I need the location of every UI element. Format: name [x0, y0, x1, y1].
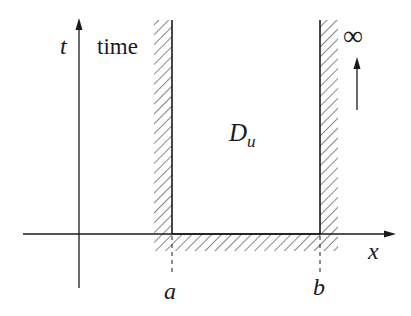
- t-axis: [76, 18, 83, 288]
- right-boundary-hatch: [320, 20, 338, 234]
- x-axis-arrowhead-icon: [384, 231, 396, 238]
- left-boundary-hatch: [154, 20, 172, 234]
- boundary-a-label: a: [164, 279, 176, 303]
- t-axis-arrowhead-icon: [76, 18, 83, 30]
- time-caption: time: [97, 35, 138, 58]
- region-label-main: D: [229, 119, 247, 146]
- x-axis-label: x: [368, 239, 379, 263]
- t-axis-label: t: [60, 34, 67, 58]
- region-label-subscript: u: [247, 132, 256, 151]
- infinity-symbol: ∞: [343, 22, 363, 50]
- region-label: Du: [229, 120, 256, 145]
- infinity-arrow-icon: [354, 57, 361, 110]
- boundary-b-label: b: [313, 275, 325, 299]
- bottom-boundary-hatch: [154, 234, 338, 251]
